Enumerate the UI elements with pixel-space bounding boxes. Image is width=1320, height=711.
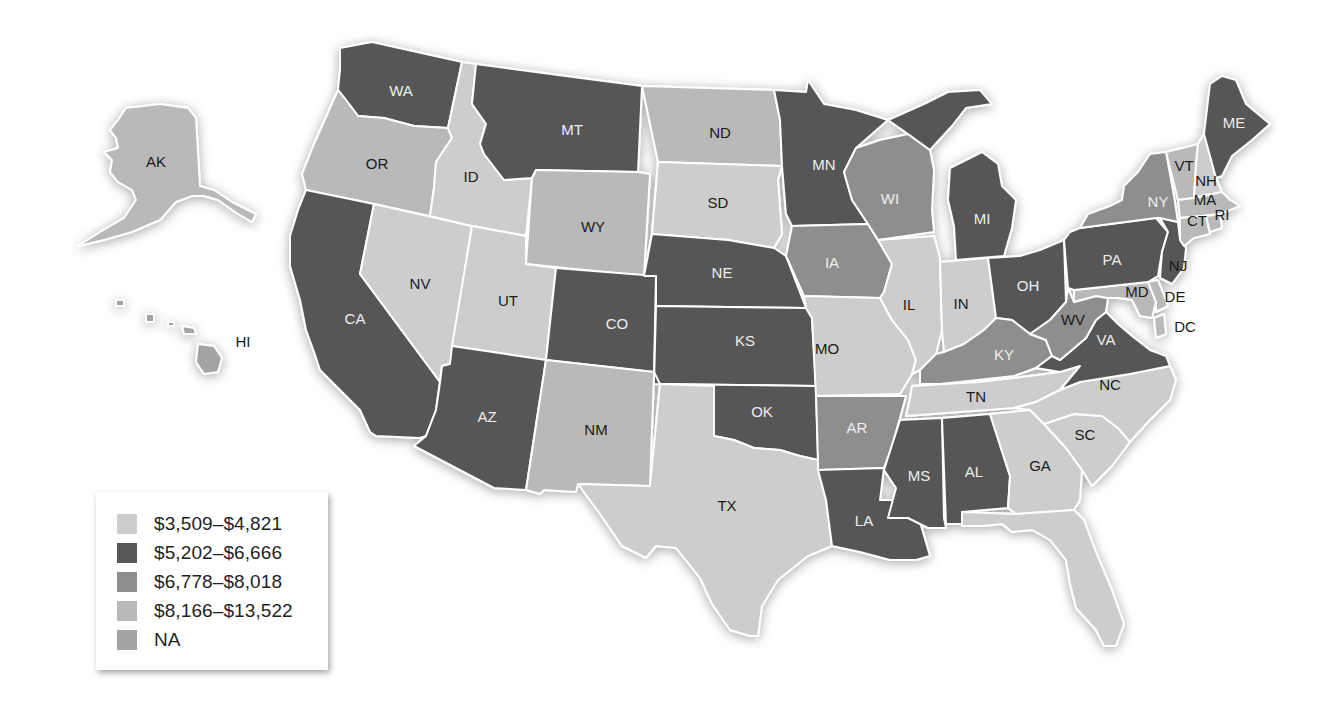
legend-label: $8,166–$13,522 — [154, 600, 293, 622]
label-KS: KS — [735, 332, 755, 349]
label-IA: IA — [825, 254, 839, 271]
legend-label: $5,202–$6,666 — [154, 542, 282, 564]
state-NY — [1080, 152, 1178, 228]
state-HI — [116, 300, 222, 374]
label-DE: DE — [1165, 288, 1186, 305]
label-AL: AL — [965, 463, 983, 480]
legend-label: $3,509–$4,821 — [154, 513, 282, 535]
label-OH: OH — [1017, 277, 1040, 294]
state-AK — [78, 104, 256, 246]
legend-item: NA — [117, 625, 328, 654]
label-ME: ME — [1223, 114, 1246, 131]
label-AK: AK — [146, 153, 166, 170]
label-IL: IL — [903, 296, 916, 313]
label-TX: TX — [717, 497, 736, 514]
label-NV: NV — [410, 275, 431, 292]
label-CT: CT — [1187, 212, 1207, 229]
label-VT: VT — [1174, 157, 1193, 174]
legend-label: NA — [154, 629, 181, 651]
label-NC: NC — [1099, 376, 1121, 393]
label-NY: NY — [1148, 193, 1169, 210]
label-OK: OK — [751, 403, 773, 420]
label-VA: VA — [1097, 331, 1116, 348]
legend-swatch — [117, 630, 137, 650]
label-NH: NH — [1195, 172, 1217, 189]
label-NE: NE — [712, 264, 733, 281]
legend-swatch — [117, 572, 137, 592]
label-PA: PA — [1103, 251, 1122, 268]
label-RI: RI — [1215, 206, 1230, 223]
label-NJ: NJ — [1169, 257, 1187, 274]
legend-swatch — [117, 601, 137, 621]
legend-label: $6,778–$8,018 — [154, 571, 282, 593]
label-DC: DC — [1174, 318, 1196, 335]
legend-item: $3,509–$4,821 — [117, 509, 328, 538]
legend-item: $6,778–$8,018 — [117, 567, 328, 596]
label-IN: IN — [954, 295, 969, 312]
label-AR: AR — [847, 419, 868, 436]
map-legend: $3,509–$4,821 $5,202–$6,666 $6,778–$8,01… — [96, 492, 328, 670]
state-DC — [1154, 314, 1166, 338]
label-CA: CA — [345, 310, 366, 327]
label-UT: UT — [498, 292, 518, 309]
legend-item: $8,166–$13,522 — [117, 596, 328, 625]
label-HI: HI — [236, 333, 251, 350]
label-WV: WV — [1061, 311, 1085, 328]
label-TN: TN — [966, 388, 986, 405]
label-GA: GA — [1029, 457, 1051, 474]
label-MA: MA — [1194, 191, 1217, 208]
label-NM: NM — [584, 421, 607, 438]
state-FL — [962, 510, 1124, 646]
state-MT — [472, 64, 642, 180]
label-MT: MT — [561, 121, 583, 138]
label-SC: SC — [1075, 426, 1096, 443]
label-KY: KY — [994, 346, 1014, 363]
legend-item: $5,202–$6,666 — [117, 538, 328, 567]
legend-swatch — [117, 543, 137, 563]
label-OR: OR — [366, 155, 389, 172]
label-MO: MO — [815, 340, 839, 357]
label-LA: LA — [855, 512, 873, 529]
label-MS: MS — [908, 467, 931, 484]
label-MI: MI — [974, 210, 991, 227]
legend-swatch — [117, 514, 137, 534]
label-SD: SD — [708, 194, 729, 211]
label-ID: ID — [464, 168, 479, 185]
label-MN: MN — [812, 156, 835, 173]
label-MD: MD — [1125, 283, 1148, 300]
label-ND: ND — [709, 124, 731, 141]
state-CO — [546, 268, 656, 372]
label-CO: CO — [606, 315, 629, 332]
label-WY: WY — [581, 218, 605, 235]
label-WI: WI — [881, 190, 899, 207]
label-AZ: AZ — [477, 408, 496, 425]
label-WA: WA — [389, 82, 413, 99]
